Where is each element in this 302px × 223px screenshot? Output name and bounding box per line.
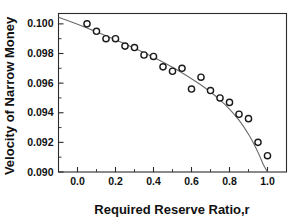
data-point	[150, 53, 156, 59]
y-tick-label: 0.094	[27, 106, 53, 118]
data-point	[93, 28, 99, 34]
y-tick-label: 0.100	[27, 17, 53, 29]
data-point	[198, 74, 204, 80]
y-tick-label: 0.098	[27, 47, 53, 59]
chart-figure: 0.00.20.40.60.81.0 0.0900.0920.0940.0960…	[0, 0, 302, 223]
y-axis-title: Velocity of Narrow Money	[2, 16, 17, 175]
x-tick-label: 0.2	[108, 175, 123, 187]
data-point	[131, 44, 137, 50]
data-point	[236, 111, 242, 117]
data-point	[245, 116, 251, 122]
x-axis-title: Required Reserve Ratio,r	[94, 202, 249, 217]
x-tick-label: 0.0	[70, 175, 85, 187]
y-tick-label: 0.092	[27, 136, 53, 148]
x-tick-label: 0.4	[146, 175, 161, 187]
data-point	[255, 139, 261, 145]
data-point	[103, 36, 109, 42]
data-point	[217, 95, 223, 101]
data-point	[160, 64, 166, 70]
data-point	[264, 153, 270, 159]
data-point	[122, 43, 128, 49]
y-tick-label: 0.090	[27, 166, 53, 178]
data-point	[84, 21, 90, 27]
data-point	[112, 36, 118, 42]
data-point	[179, 65, 185, 71]
scatter-plot: 0.00.20.40.60.81.0 0.0900.0920.0940.0960…	[0, 0, 302, 223]
y-tick-label: 0.096	[27, 77, 53, 89]
data-point	[141, 52, 147, 58]
data-point	[188, 86, 194, 92]
x-tick-label: 0.6	[184, 175, 199, 187]
data-point	[226, 99, 232, 105]
data-point	[207, 87, 213, 93]
x-tick-label: 0.8	[222, 175, 237, 187]
x-tick-label: 1.0	[260, 175, 275, 187]
data-point	[169, 68, 175, 74]
